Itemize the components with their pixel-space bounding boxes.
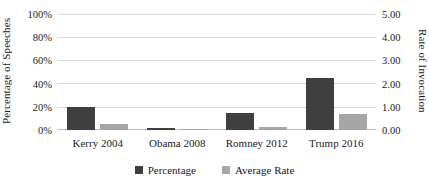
y-tick-right-2: 2.00 <box>382 79 400 90</box>
bar-average-rate-romney-2012 <box>259 127 287 130</box>
bar-group-trump-2016 <box>297 14 377 130</box>
bar-average-rate-trump-2016 <box>339 114 367 130</box>
x-label-kerry-2004: Kerry 2004 <box>58 133 138 153</box>
bar-group-kerry-2004 <box>58 14 138 130</box>
y-tick-left-40: 40% <box>33 79 52 90</box>
bar-average-rate-obama-2008 <box>180 129 208 130</box>
bar-group-obama-2008 <box>138 14 218 130</box>
plot-area <box>58 14 376 130</box>
y-tick-left-60: 60% <box>33 55 52 66</box>
legend-swatch-icon-average-rate <box>222 166 230 174</box>
x-label-obama-2008: Obama 2008 <box>138 133 218 153</box>
y-tick-right-1: 1.00 <box>382 102 400 113</box>
legend-item-percentage: Percentage <box>135 165 196 176</box>
bar-group-romney-2012 <box>217 14 297 130</box>
y-tick-left-20: 20% <box>33 102 52 113</box>
bar-percentage-trump-2016 <box>306 78 334 130</box>
legend-item-average-rate: Average Rate <box>222 165 294 176</box>
bar-chart: Percentage of Speeches Rate of Invocatio… <box>0 0 429 184</box>
bars-layer <box>58 14 376 130</box>
bar-percentage-kerry-2004 <box>67 107 95 130</box>
y-tick-right-4: 4.00 <box>382 32 400 43</box>
chart-legend: Percentage Average Rate <box>0 160 429 180</box>
y-axis-left-ticks: 100% 80% 60% 40% 20% 0% <box>13 14 56 130</box>
x-label-trump-2016: Trump 2016 <box>297 133 377 153</box>
legend-label-average-rate: Average Rate <box>235 165 294 176</box>
y-tick-left-0: 0% <box>38 125 52 136</box>
y-tick-left-80: 80% <box>33 32 52 43</box>
bar-average-rate-kerry-2004 <box>100 124 128 130</box>
y-axis-left-title: Percentage of Speeches <box>0 8 13 134</box>
bar-percentage-romney-2012 <box>226 113 254 130</box>
legend-swatch-icon-percentage <box>135 166 143 174</box>
y-tick-left-100: 100% <box>28 9 53 20</box>
x-label-romney-2012: Romney 2012 <box>217 133 297 153</box>
y-axis-right-ticks: 5.00 4.00 3.00 2.00 1.00 0.00 <box>377 14 415 130</box>
x-axis-labels: Kerry 2004 Obama 2008 Romney 2012 Trump … <box>58 133 376 153</box>
y-axis-right-title: Rate of Invocation <box>416 8 429 134</box>
bar-percentage-obama-2008 <box>147 128 175 130</box>
y-tick-right-0: 0.00 <box>382 125 400 136</box>
legend-label-percentage: Percentage <box>148 165 196 176</box>
y-tick-right-3: 3.00 <box>382 55 400 66</box>
y-tick-right-5: 5.00 <box>382 9 400 20</box>
